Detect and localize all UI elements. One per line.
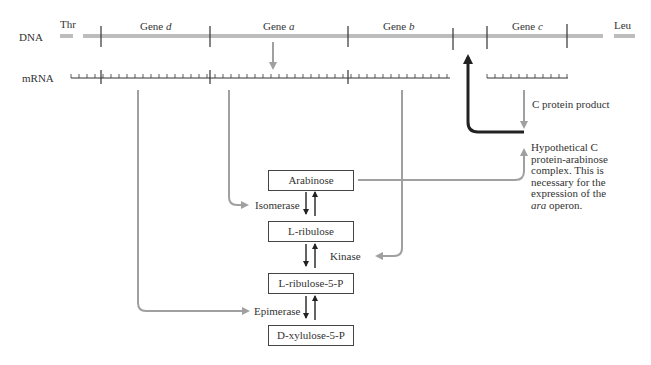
metabolite-d-xylulose-5-p: D-xylulose-5-P xyxy=(268,325,354,346)
reversible-arrows xyxy=(306,192,315,320)
mrna-strand xyxy=(71,70,568,84)
gene-b-label: Gene b xyxy=(383,20,414,32)
enzyme-isomerase: Isomerase xyxy=(255,199,300,211)
enzyme-epimerase: Epimerase xyxy=(254,305,300,317)
leu-marker: Leu xyxy=(614,19,631,31)
gene-a-label: Gene a xyxy=(263,20,294,32)
dna-label: DNA xyxy=(19,31,43,43)
metabolite-l-ribulose: L-ribulose xyxy=(268,221,354,242)
metabolite-arabinose: Arabinose xyxy=(268,170,354,191)
complex-note: Hypothetical C protein-arabinose complex… xyxy=(531,142,641,211)
enzyme-kinase: Kinase xyxy=(330,250,361,262)
metabolite-l-ribulose-5-p: L-ribulose-5-P xyxy=(268,273,354,294)
gene-c-label: Gene c xyxy=(512,20,543,32)
gene-d-label: Gene d xyxy=(140,20,171,32)
thr-marker: Thr xyxy=(60,18,76,30)
mrna-label: mRNA xyxy=(22,72,54,84)
c-protein-label: C protein product xyxy=(532,98,610,110)
